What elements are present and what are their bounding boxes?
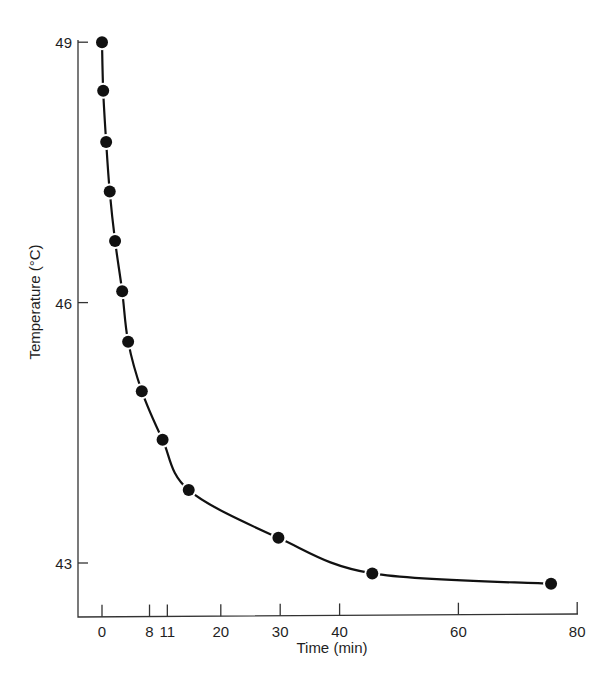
y-tick-label: 46 (55, 295, 72, 312)
x-tick-label: 11 (160, 623, 176, 640)
y-axis-label: Temperature (°C) (26, 244, 43, 359)
x-tick-label: 0 (98, 623, 106, 640)
curve-line (102, 42, 551, 584)
y-tick-label: 43 (55, 555, 72, 572)
data-point (157, 434, 169, 446)
axis-lines (78, 40, 578, 617)
temperature-time-chart: 43464908112030406080 Time (min) Temperat… (0, 0, 610, 674)
y-tick-label: 49 (55, 34, 72, 51)
data-point (104, 185, 116, 197)
data-point (96, 36, 108, 48)
data-point (97, 85, 109, 97)
fitted-curve (102, 42, 551, 584)
data-points (94, 34, 559, 592)
x-tick-label: 20 (212, 623, 229, 640)
axis-labels: Time (min) Temperature (°C) (26, 244, 368, 656)
data-point (100, 136, 112, 148)
data-point (545, 578, 557, 590)
data-point (109, 235, 121, 247)
data-point (116, 285, 128, 297)
x-tick-label: 80 (569, 623, 586, 640)
x-tick-label: 8 (145, 623, 153, 640)
data-point (122, 336, 134, 348)
data-point (272, 532, 284, 544)
data-point (366, 567, 378, 579)
axes: 43464908112030406080 (55, 34, 585, 640)
data-point (183, 484, 195, 496)
x-axis-label: Time (min) (296, 639, 367, 656)
x-tick-label: 60 (450, 623, 467, 640)
data-point (136, 385, 148, 397)
x-tick-label: 30 (272, 623, 289, 640)
x-tick-label: 40 (331, 623, 348, 640)
